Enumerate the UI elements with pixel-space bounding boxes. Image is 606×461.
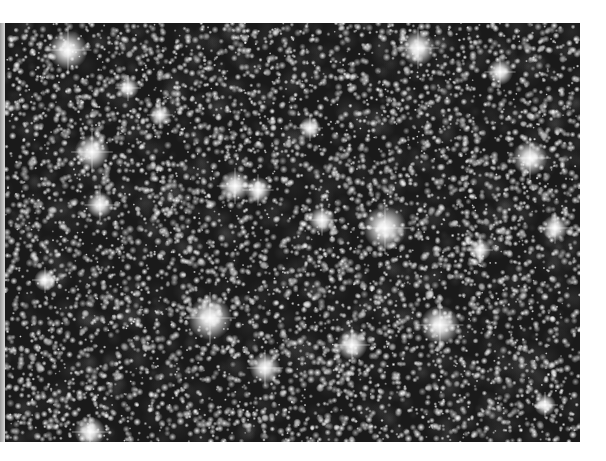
star-field-canvas	[5, 23, 580, 442]
star-field-photo	[5, 23, 580, 442]
